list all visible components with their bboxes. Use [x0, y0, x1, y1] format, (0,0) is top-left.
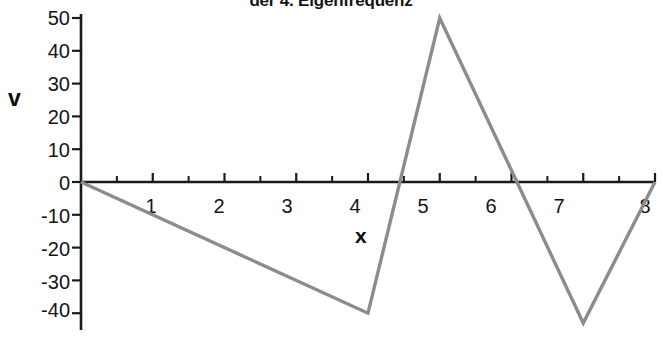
mode-shape-line: [81, 18, 655, 323]
plot-area: [0, 0, 662, 337]
chart-canvas: der 4. Eigenfrequenz v x 50 40 30 20 10 …: [0, 0, 662, 337]
y-axis-ticks: [72, 18, 81, 313]
